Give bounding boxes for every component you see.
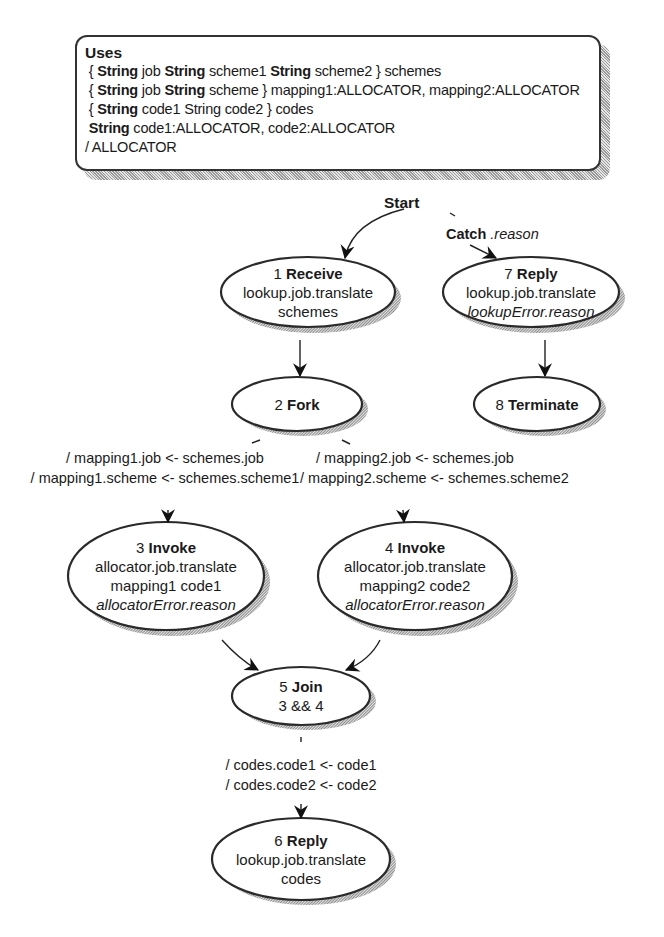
edge-start-to-catch-tick [450, 213, 455, 216]
node-1-receive: 1 Receive lookup.job.translate schemes [221, 264, 395, 321]
node-8-terminate: 8 Terminate [474, 395, 600, 414]
edge-start-to-1 [345, 209, 404, 258]
start-label: Start [384, 193, 419, 213]
node-7-reply: 7 Reply lookup.job.translate lookupError… [443, 264, 619, 321]
edge-2-tick-left [252, 440, 260, 443]
edge-3-to-5 [222, 640, 258, 670]
edge-2-tick-right [342, 440, 350, 444]
edge-label-fork-to-3: / mapping1.job <- schemes.job / mapping1… [10, 448, 320, 488]
edge-catch-to-7 [470, 245, 496, 258]
node-5-join: 5 Join 3 && 4 [232, 677, 370, 715]
edge-label-fork-to-4: / mapping2.job <- schemes.job / mapping2… [300, 448, 530, 488]
node-3-invoke: 3 Invoke allocator.job.translate mapping… [68, 538, 264, 614]
edge-label-join-to-6: / codes.code1 <- code1 / codes.code2 <- … [191, 755, 411, 795]
node-4-invoke: 4 Invoke allocator.job.translate mapping… [318, 538, 512, 614]
edge-label-to-4 [403, 510, 404, 522]
node-2-fork: 2 Fork [232, 395, 362, 414]
catch-label: Catch .reason [446, 224, 539, 244]
edge-4-to-5 [346, 640, 380, 670]
node-6-reply: 6 Reply lookup.job.translate codes [212, 831, 390, 888]
